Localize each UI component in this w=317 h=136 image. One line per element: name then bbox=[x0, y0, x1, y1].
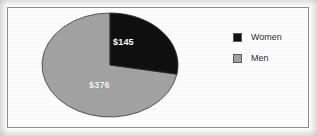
legend-swatch-men-icon bbox=[233, 54, 242, 63]
slice-label-men: $376 bbox=[89, 80, 110, 90]
plot-area: $145 $376 Women Men bbox=[8, 8, 310, 129]
legend-item-men[interactable]: Men bbox=[233, 50, 305, 66]
pie-chart-figure: $145 $376 Women Men bbox=[0, 0, 317, 136]
slice-label-women: $145 bbox=[113, 37, 134, 47]
legend-swatch-women-icon bbox=[233, 33, 242, 42]
legend-label-women: Women bbox=[251, 32, 282, 42]
pie-graphic bbox=[30, 13, 190, 119]
legend-label-men: Men bbox=[251, 53, 269, 63]
chart-legend: Women Men bbox=[233, 29, 305, 71]
chart-frame-border: $145 $376 Women Men bbox=[7, 7, 309, 128]
legend-item-women[interactable]: Women bbox=[233, 29, 305, 45]
